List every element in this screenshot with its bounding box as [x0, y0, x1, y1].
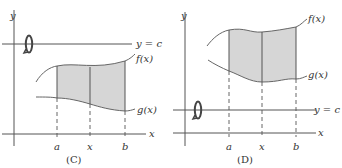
g-label-d: g(x) — [308, 69, 328, 80]
x-axis-label-c: x — [149, 128, 155, 139]
y-axis-label-c: y — [9, 10, 16, 21]
a-label-c: a — [54, 141, 60, 152]
shaded-region-c — [57, 61, 125, 111]
diagram-canvas: y x y = c f(x) g(x) a x b (C) y x y = c … — [0, 0, 342, 168]
b-label-d: b — [293, 141, 299, 152]
g-label-c: g(x) — [137, 104, 157, 115]
x-axis-label-d: x — [318, 127, 324, 138]
panel-d: y x y = c f(x) g(x) a x b (D) — [173, 10, 340, 165]
a-label-d: a — [226, 141, 232, 152]
caption-d: (D) — [237, 154, 253, 165]
line-label-d: y = c — [313, 104, 340, 115]
f-label-d: f(x) — [307, 13, 325, 24]
line-label-c: y = c — [135, 38, 162, 49]
caption-c: (C) — [66, 154, 82, 165]
x-tick-label-c: x — [87, 141, 93, 152]
f-label-c: f(x) — [135, 53, 153, 64]
panel-c: y x y = c f(x) g(x) a x b (C) — [2, 10, 162, 165]
b-label-c: b — [122, 141, 128, 152]
y-axis-label-d: y — [180, 10, 187, 21]
x-tick-label-d: x — [259, 141, 265, 152]
